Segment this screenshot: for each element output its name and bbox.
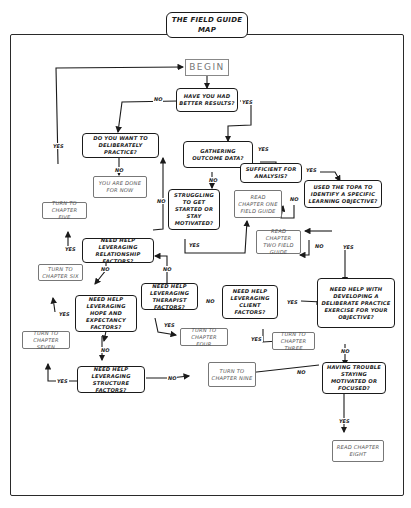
chapter-six-box[interactable]: TURN TO CHAPTER SIX (38, 264, 83, 281)
label-yes-better: YES (241, 99, 254, 105)
chapter-seven-box[interactable]: TURN TO CHAPTER SEVEN (22, 331, 70, 349)
label-no-therapist: NO (162, 266, 172, 272)
decision-develop-exercise[interactable]: NEED HELP WITH DEVELOPING A DELIBERATE P… (317, 278, 395, 328)
label-no-struggling: NO (156, 198, 166, 204)
label-yes-trouble: YES (338, 418, 351, 424)
decision-better-results[interactable]: HAVE YOU HAD BETTER RESULTS? (176, 88, 238, 112)
begin-node[interactable]: BEGIN (185, 59, 229, 76)
decision-therapist-factors[interactable]: NEED HELP LEVERAGING THERAPIST FACTORS? (141, 283, 198, 310)
label-yes-therapist: YES (163, 322, 176, 328)
label-yes-topa: YES (342, 244, 355, 250)
label-no-better: NO (153, 96, 163, 102)
decision-sufficient-analysis[interactable]: SUFFICIENT FOR ANALYSIS? (240, 163, 302, 183)
label-yes-structure: YES (56, 378, 69, 384)
decision-client-factors[interactable]: NEED HELP LEVERAGING CLIENT FACTORS? (222, 285, 278, 319)
label-yes-hope: YES (58, 311, 71, 317)
terminal-done-for-now[interactable]: YOU ARE DONE FOR NOW (93, 176, 147, 198)
decision-trouble-motivated[interactable]: HAVING TROUBLE STAYING MOTIVATED OR FOCU… (322, 362, 386, 394)
decision-deliberate-practice[interactable]: DO YOU WANT TO DELIBERATELY PRACTICE? (82, 133, 159, 158)
chapter-five-box[interactable]: TURN TO CHAPTER FIVE (42, 202, 87, 219)
decision-struggling[interactable]: STRUGGLING TO GET STARTED OR STAY MOTIVA… (168, 189, 220, 230)
label-no-relationship: NO (100, 266, 110, 272)
label-yes-client: YES (250, 336, 263, 342)
label-no-topa: NO (314, 243, 324, 249)
connector-lines (0, 0, 411, 508)
label-no-gathering: NO (208, 177, 218, 183)
label-yes-develop: YES (286, 299, 299, 305)
label-no-trouble: NO (296, 369, 306, 375)
label-no-hope: NO (100, 347, 110, 353)
chapter-nine-box[interactable]: TURN TO CHAPTER NINE (208, 362, 256, 387)
label-yes-deliberate: YES (52, 143, 65, 149)
label-no-develop: NO (340, 348, 350, 354)
map-title: THE FIELD GUIDE MAP (166, 12, 248, 38)
decision-used-topa[interactable]: USED THE TOPA TO IDENTIFY A SPECIFIC LEA… (304, 180, 382, 208)
decision-relationship-factors[interactable]: NEED HELP LEVERAGING RELATIONSHIP FACTOR… (82, 238, 154, 263)
chapter-one-box[interactable]: READ CHAPTER ONE FIELD GUIDE (234, 190, 282, 218)
label-yes-gathering: YES (257, 146, 270, 152)
decision-hope-expectancy[interactable]: NEED HELP LEVERAGING HOPE AND EXPECTANCY… (75, 295, 137, 332)
label-yes-struggling: YES (188, 242, 201, 248)
chapter-two-box[interactable]: READ CHAPTER TWO FIELD GUIDE (256, 230, 301, 254)
label-no-structure: NO (167, 375, 177, 381)
label-yes-sufficient: YES (305, 167, 318, 173)
label-no-sufficient: NO (289, 196, 299, 202)
chapter-four-box[interactable]: TURN TO CHAPTER FOUR (180, 328, 228, 346)
label-yes-relationship: YES (64, 246, 77, 252)
label-no-client: NO (205, 298, 215, 304)
label-no-deliberate: NO (114, 167, 124, 173)
chapter-three-box[interactable]: TURN TO CHAPTER THREE (272, 332, 315, 350)
chapter-eight-box[interactable]: READ CHAPTER EIGHT (332, 440, 384, 462)
decision-structure-factors[interactable]: NEED HELP LEVERAGING STRUCTURE FACTORS? (77, 366, 145, 393)
